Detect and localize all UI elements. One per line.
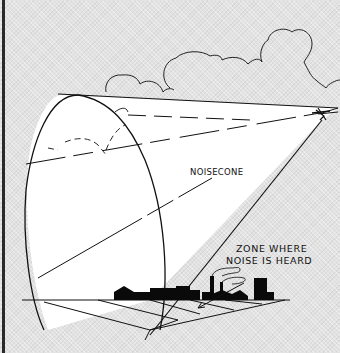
zone-label-line2: NOISE IS HEARD — [226, 255, 312, 266]
illustration-frame: NOISECONE ZONE WHERE NOISE IS HEARD — [0, 0, 340, 353]
zone-label-line1: ZONE WHERE — [236, 243, 307, 254]
smoke-plumes — [212, 268, 245, 285]
clouds — [106, 29, 340, 92]
noise-cone-diagram: NOISECONE ZONE WHERE NOISE IS HEARD — [0, 0, 340, 353]
noise-cone-label: NOISECONE — [190, 167, 243, 177]
